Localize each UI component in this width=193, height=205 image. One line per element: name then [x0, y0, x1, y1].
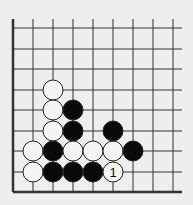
go-board: 1 — [0, 0, 193, 205]
black-stone — [63, 162, 83, 182]
white-stone — [23, 141, 43, 161]
white-stone — [43, 100, 63, 120]
black-stone — [123, 141, 143, 161]
white-stone — [83, 141, 103, 161]
black-stone — [63, 121, 83, 141]
black-stone — [43, 141, 63, 161]
black-stone — [83, 162, 103, 182]
black-stone — [43, 162, 63, 182]
white-stone — [43, 80, 63, 100]
white-stone — [63, 141, 83, 161]
black-stone — [63, 100, 83, 120]
move-number-label: 1 — [109, 165, 116, 180]
white-stone: 1 — [103, 162, 123, 182]
white-stone — [43, 121, 63, 141]
black-stone — [103, 121, 123, 141]
white-stone — [23, 162, 43, 182]
white-stone — [103, 141, 123, 161]
